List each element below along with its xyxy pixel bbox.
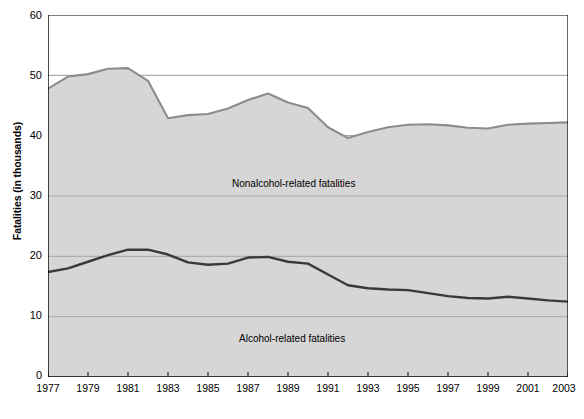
- x-tick-1983: 1983: [148, 382, 188, 394]
- x-tick-1979: 1979: [68, 382, 108, 394]
- x-tick-1999: 1999: [468, 382, 508, 394]
- y-tick-60: 60: [8, 9, 42, 21]
- x-tick-1985: 1985: [188, 382, 228, 394]
- y-tick-50: 50: [8, 69, 42, 81]
- y-tick-40: 40: [8, 129, 42, 141]
- y-tick-20: 20: [8, 249, 42, 261]
- y-axis-title: Fatalities (in thousands): [11, 96, 23, 266]
- series-label-nonalcohol: Nonalcohol-related fatalities: [232, 178, 355, 189]
- x-tick-1993: 1993: [348, 382, 388, 394]
- x-tick-1989: 1989: [268, 382, 308, 394]
- fatalities-area-chart: Fatalities (in thousands) 60 50 40 30 20…: [0, 0, 584, 419]
- x-tick-1997: 1997: [428, 382, 468, 394]
- plot-svg: [48, 15, 568, 377]
- x-tick-2003: 2003: [544, 382, 584, 394]
- x-tick-1991: 1991: [308, 382, 348, 394]
- x-tick-1995: 1995: [388, 382, 428, 394]
- y-tick-10: 10: [8, 309, 42, 321]
- x-tick-2001: 2001: [508, 382, 548, 394]
- x-tick-1987: 1987: [228, 382, 268, 394]
- plot-area: [48, 15, 568, 377]
- x-tick-1977: 1977: [28, 382, 68, 394]
- y-tick-0: 0: [8, 369, 42, 381]
- y-tick-30: 30: [8, 189, 42, 201]
- series-label-alcohol: Alcohol-related fatalities: [239, 333, 345, 344]
- x-tick-1981: 1981: [108, 382, 148, 394]
- nonalcohol-area: [48, 68, 568, 377]
